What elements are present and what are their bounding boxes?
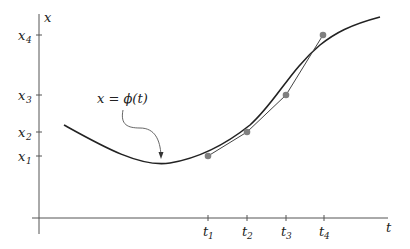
x-tick-t3: t 3 [281, 215, 292, 241]
svg-text:2: 2 [25, 132, 32, 142]
annotation-arrow [122, 110, 161, 155]
y-tick-x1: x 1 [18, 149, 42, 166]
arrowhead-icon [159, 152, 164, 159]
y-axis-label: x [44, 10, 52, 25]
svg-text:3: 3 [26, 95, 32, 105]
svg-text:x: x [18, 28, 26, 43]
y-tick-x3: x 3 [18, 88, 42, 105]
svg-text:x: x [18, 149, 26, 164]
svg-text:3: 3 [286, 231, 292, 241]
svg-text:1: 1 [26, 156, 32, 166]
euler-approximation-polyline [208, 35, 323, 156]
euler-method-diagram: x t x 4 x 3 x 2 x 1 t 1 t 2 t 3 t 4 [0, 0, 410, 249]
point-3 [283, 92, 290, 99]
x-tick-t2: t 2 [242, 215, 253, 241]
svg-text:4: 4 [25, 35, 32, 45]
approximation-points [205, 32, 327, 160]
y-tick-x2: x 2 [18, 125, 42, 142]
x-tick-t1: t 1 [203, 215, 214, 241]
y-tick-x4: x 4 [18, 28, 42, 45]
svg-text:x: x [18, 125, 26, 140]
point-4 [320, 32, 327, 39]
curve-annotation: x = ϕ(t) [97, 91, 148, 106]
point-2 [244, 129, 251, 136]
svg-text:4: 4 [323, 231, 330, 241]
point-1 [205, 153, 212, 160]
svg-text:x: x [18, 88, 26, 103]
x-tick-t4: t 4 [319, 215, 330, 241]
x-axis-label: t [386, 220, 392, 235]
svg-text:2: 2 [246, 231, 253, 241]
svg-text:1: 1 [208, 231, 214, 241]
